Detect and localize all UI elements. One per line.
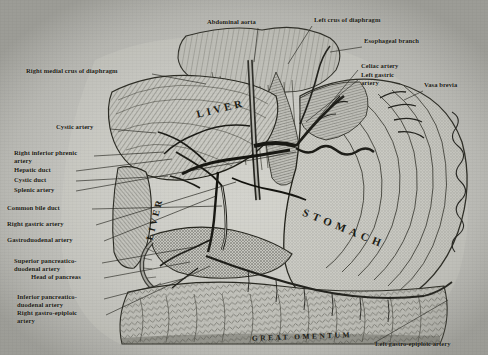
label-cystic-artery: Cystic artery (56, 123, 93, 131)
label-right-gastric-artery: Right gastric artery (7, 220, 64, 228)
anatomical-plate: LIVER LIVER STOMACH GREAT OMENTUM Abdomi… (0, 0, 488, 355)
label-left-crus-of-diaphragm: Left crus of diaphragm (314, 16, 380, 24)
label-left-gastric-artery: Left gastric artery (361, 71, 394, 86)
label-abdominal-aorta: Abdominal aorta (207, 18, 256, 26)
label-superior-pancreaticoduodenal-artery: Superior pancreatico- duodenal artery (14, 257, 77, 272)
label-vasa-brevia: Vasa brevia (424, 81, 457, 89)
label-hepatic-duct: Hepatic duct (14, 166, 51, 174)
label-right-medial-crus-of-diaphragm: Right medial crus of diaphragm (26, 67, 118, 75)
label-splenic-artery: Splenic artery (14, 186, 54, 194)
label-esophageal-branch: Esophageal branch (364, 37, 419, 45)
label-common-bile-duct: Common bile duct (7, 204, 60, 212)
label-head-of-pancreas: Head of pancreas (31, 273, 81, 281)
label-right-gastro-epiploic-artery: Right gastro-epiploic artery (17, 309, 77, 324)
label-cystic-duct: Cystic duct (14, 176, 46, 184)
label-inferior-pancreaticoduodenal-artery: Inferior pancreatico- duodenal artery (17, 293, 77, 308)
label-gastroduodenal-artery: Gastroduodenal artery (7, 236, 73, 244)
label-celiac-artery: Celiac artery (361, 62, 398, 70)
label-right-inferior-phrenic-artery: Right inferior phrenic artery (14, 149, 77, 164)
label-left-gastro-epiploic-artery: Left gastro-epiploic artery (375, 340, 451, 348)
